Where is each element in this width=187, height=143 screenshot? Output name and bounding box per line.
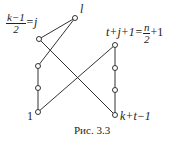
label-l: l <box>80 3 83 15</box>
node <box>36 64 41 69</box>
node <box>36 86 41 91</box>
label-j-rhs: =j <box>26 15 37 29</box>
label-right-top-lhs: t+j+1= <box>106 25 143 39</box>
edge <box>38 45 115 112</box>
edge <box>39 39 115 115</box>
edge <box>39 18 75 39</box>
label-j-denominator: 2 <box>6 24 26 35</box>
label-right-top-rhs: +1 <box>150 25 163 39</box>
node-1 <box>36 110 41 115</box>
label-k-t-1: k+t−1 <box>120 110 151 122</box>
edge <box>38 18 75 66</box>
label-1: 1 <box>27 110 33 122</box>
label-j: k−1 2 =j <box>6 12 37 35</box>
node-j <box>37 37 42 42</box>
node-l <box>73 16 78 21</box>
node-k-t-1 <box>113 113 118 118</box>
label-right-top: t+j+1= n 2 +1 <box>106 22 163 45</box>
node <box>113 88 118 93</box>
figure-caption: Рис. 3.3 <box>74 124 110 136</box>
node <box>113 66 118 71</box>
